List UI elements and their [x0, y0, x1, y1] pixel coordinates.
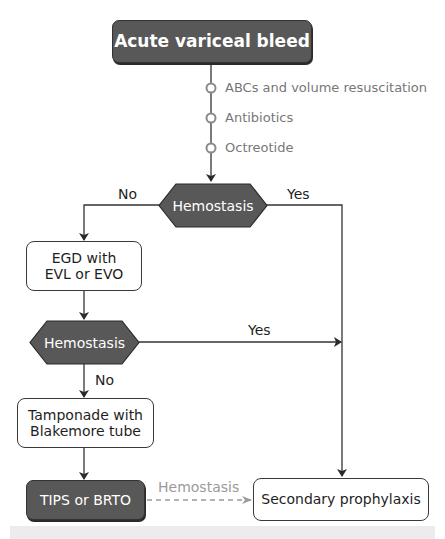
decision-hemostasis-1: Hemostasis [158, 183, 268, 228]
egd-line1: EGD with [52, 250, 117, 266]
node-title-text: Acute variceal bleed [114, 32, 310, 52]
tamponade-line1: Tamponade with [28, 407, 143, 423]
step-antibiotics: Antibiotics [225, 110, 293, 125]
node-secondary-prophylaxis: Secondary prophylaxis [253, 478, 429, 521]
tips-text: TIPS or BRTO [40, 492, 131, 508]
tips-edge-hemostasis-label: Hemostasis [158, 479, 239, 495]
decision-1-no-label: No [118, 186, 137, 202]
egd-line2: EVL or EVO [45, 266, 124, 282]
node-acute-variceal-bleed: Acute variceal bleed [112, 20, 312, 63]
decision-1-text: Hemostasis [172, 198, 253, 214]
node-tips-brto: TIPS or BRTO [26, 480, 145, 520]
node-tamponade: Tamponade with Blakemore tube [17, 398, 154, 448]
flowchart-canvas: Acute variceal bleed ABCs and volume res… [0, 0, 445, 539]
tamponade-line2: Blakemore tube [30, 423, 141, 439]
decision-1-yes-label: Yes [287, 186, 310, 202]
decision-hemostasis-2: Hemostasis [29, 320, 140, 365]
node-egd: EGD with EVL or EVO [26, 241, 142, 291]
decision-2-no-label: No [95, 372, 114, 388]
decision-2-yes-label: Yes [248, 322, 271, 338]
step-abcs: ABCs and volume resuscitation [225, 80, 427, 95]
step-octreotide: Octreotide [225, 140, 293, 155]
decision-2-text: Hemostasis [44, 335, 125, 351]
outcome-text: Secondary prophylaxis [261, 491, 420, 507]
